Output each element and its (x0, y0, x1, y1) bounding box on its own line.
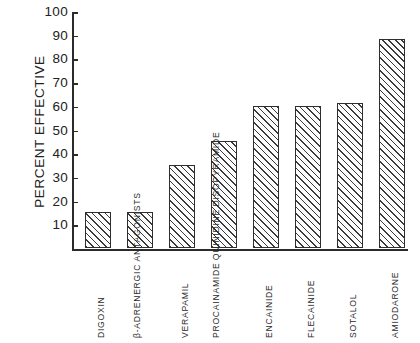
x-axis-tick-label: β-ADRENERGICANTAGONISTS (119, 252, 161, 343)
x-axis-tick-label: SOTALOL (329, 252, 371, 343)
bar-chart: PERCENT EFFECTIVE 100908070605040302010 … (0, 0, 420, 343)
y-axis-tick-mark (72, 178, 78, 180)
x-axis-tick-label: FLECAINIDE (287, 252, 329, 343)
y-axis-tick-label: 80 (34, 52, 68, 66)
x-axis-tick-label: AMIODARONE (371, 252, 413, 343)
y-axis-tick-label: 10 (34, 218, 68, 232)
y-axis-tick-mark (72, 225, 78, 227)
y-axis-tick-label: 60 (34, 100, 68, 114)
y-axis-tick-label: 30 (34, 171, 68, 185)
plot-area (72, 12, 408, 249)
y-axis-tick-label: 100 (34, 5, 68, 19)
x-axis-tick-label-line: DIGOXIN (96, 296, 107, 338)
bar (169, 165, 195, 248)
y-axis-tick-mark (72, 154, 78, 156)
x-axis-tick-label: DIGOXIN (77, 252, 119, 343)
y-axis-tick-mark (72, 12, 78, 14)
y-axis-tick-mark (72, 107, 78, 109)
x-axis-tick-label-line: FLECAINIDE (306, 280, 317, 338)
y-axis-tick-mark (72, 83, 78, 85)
x-axis-tick-label-line: ANTAGONISTS (132, 192, 143, 261)
x-axis-tick-label-line: VERAPAMIL (180, 283, 191, 338)
x-axis-tick-label-line: β-ADRENERGIC (132, 264, 143, 338)
x-axis-tick-label-line: ENCAINIDE (264, 284, 275, 338)
x-axis-tick-label-line: QUINIDINE (211, 209, 222, 260)
bar (379, 39, 405, 248)
x-axis-tick-label-line: PROCAINAMIDE (211, 263, 222, 338)
x-axis-tick-label-line: AMIODARONE (390, 272, 401, 338)
bar (295, 106, 321, 248)
x-axis-tick-label: ENCAINIDE (245, 252, 287, 343)
y-axis-tick-mark (72, 36, 78, 38)
y-axis-tick-label: 20 (34, 195, 68, 209)
y-axis-tick-label: 40 (34, 147, 68, 161)
bar (337, 103, 363, 248)
x-axis-tick-labels: DIGOXINβ-ADRENERGICANTAGONISTSVERAPAMILP… (72, 252, 408, 343)
x-axis-tick-label-line: SOTALOL (348, 294, 359, 338)
y-axis-tick-label: 50 (34, 124, 68, 138)
y-axis-tick-mark (72, 131, 78, 133)
x-axis-tick-label: PROCAINAMIDEQUINIDINEDISOPYRAMIDE (203, 252, 245, 343)
bar (253, 106, 279, 248)
x-axis-tick-label: VERAPAMIL (161, 252, 203, 343)
x-axis-tick-label-line: DISOPYRAMIDE (211, 132, 222, 207)
y-axis-tick-label: 90 (34, 29, 68, 43)
y-axis-tick-mark (72, 59, 78, 61)
bar (85, 212, 111, 248)
y-axis-tick-mark (72, 202, 78, 204)
y-axis-tick-labels: 100908070605040302010 (34, 0, 68, 260)
x-axis-line (72, 249, 408, 251)
y-axis-tick-label: 70 (34, 76, 68, 90)
